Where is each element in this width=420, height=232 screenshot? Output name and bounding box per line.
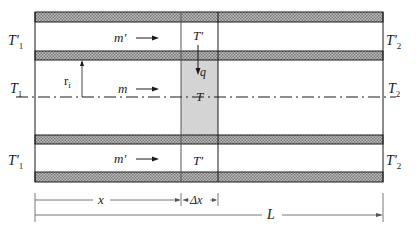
label-heat-flux: q	[200, 65, 206, 79]
label-T2-prime-bottom: T'2	[386, 153, 401, 171]
label-T2: T2	[388, 81, 400, 99]
label-dim-dx: Δx	[189, 193, 203, 207]
label-flow-outer-top: m'	[114, 30, 126, 45]
label-T1: T1	[10, 81, 22, 99]
label-flow-outer-bottom: m'	[114, 151, 126, 166]
inner-wall-top	[35, 51, 383, 60]
label-radius: ri	[64, 73, 71, 90]
label-T1-prime-top: T'1	[8, 33, 23, 51]
label-cv-inner-temp: T	[196, 89, 204, 104]
label-cv-outer-top-temp: T'	[193, 28, 203, 43]
label-flow-inner: m	[118, 81, 127, 96]
label-T1-prime-bottom: T'1	[8, 153, 23, 171]
flow-arrowhead-outer-bottom-icon	[152, 157, 159, 162]
outer-wall-bottom	[35, 172, 383, 182]
label-T2-prime-top: T'2	[386, 33, 401, 51]
dim-L-arrowhead-icon	[376, 213, 383, 217]
label-dim-L: L	[266, 207, 275, 222]
radius-arrowhead-icon	[80, 60, 84, 66]
outer-wall-top	[35, 12, 383, 22]
inner-wall-bottom	[35, 135, 383, 144]
flow-arrowhead-inner-icon	[152, 87, 159, 92]
flow-arrowhead-outer-top-icon	[152, 36, 159, 41]
heat-exchanger-diagram: T'1 T'2 T1 T2 T'1 T'2 m' m m' T' T T' q …	[0, 0, 420, 232]
dim-dx-arrowhead-right-icon	[212, 198, 217, 202]
dim-x-arrowhead-icon	[175, 198, 181, 202]
label-cv-outer-bottom-temp: T'	[193, 153, 203, 168]
label-dim-x: x	[97, 192, 104, 207]
